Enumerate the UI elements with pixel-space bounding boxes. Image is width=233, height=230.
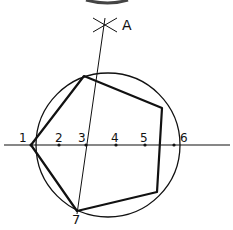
pentagon-construction-diagram: A 7 123456	[0, 0, 233, 230]
division-point-1	[29, 143, 32, 146]
division-label-3: 3	[78, 132, 86, 144]
label-7: 7	[72, 213, 80, 226]
construction-line-a-to-7	[77, 18, 105, 214]
diagram-canvas	[0, 0, 233, 230]
division-point-6	[172, 143, 175, 146]
division-label-1: 1	[19, 132, 27, 144]
division-label-4: 4	[111, 132, 119, 144]
label-a: A	[122, 18, 132, 32]
top-partial-shape	[86, 0, 128, 3]
division-label-2: 2	[55, 132, 63, 144]
division-label-5: 5	[140, 132, 148, 144]
division-label-6: 6	[180, 132, 188, 144]
